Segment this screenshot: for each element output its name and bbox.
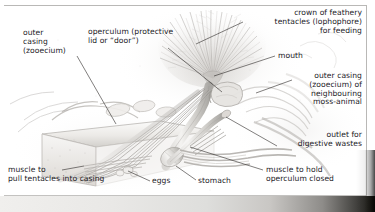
leader-mouth	[214, 56, 275, 76]
label-muscle-pull-tentacles: muscle to pull tentacles into casing	[8, 166, 104, 184]
label-operculum: operculum (protective lid or “door”)	[88, 28, 173, 46]
leader-stomach	[176, 166, 196, 180]
label-outer-casing-neighbour: outer casing (zooecium) of neighbouring …	[309, 72, 362, 107]
label-outer-casing-zooecium: outer casing (zooecium)	[23, 29, 66, 55]
label-muscle-hold-operculum: muscle to hold operculum closed	[266, 166, 334, 184]
page-corner-shadow	[356, 150, 375, 212]
leader-outer-casing-neighbour	[256, 80, 292, 93]
leader-operculum	[168, 48, 222, 92]
leader-muscle-hold-operculum	[190, 147, 263, 170]
leader-eggs	[128, 171, 150, 181]
leader-outer-casing-zooecium	[77, 56, 116, 124]
leader-outlet-digestive-wastes	[226, 117, 277, 146]
label-crown-of-tentacles: crown of feathery tentacles (lophophore)…	[275, 9, 362, 35]
illustration-page: outer casing (zooecium) operculum (prote…	[0, 0, 375, 212]
page-edge-shadow	[0, 196, 375, 212]
label-stomach: stomach	[198, 177, 231, 186]
label-eggs: eggs	[152, 177, 170, 186]
label-mouth: mouth	[278, 52, 303, 61]
frame-top-border	[4, 5, 367, 6]
label-outlet-digestive-wastes: outlet for digestive wastes	[298, 131, 362, 149]
leader-crown-of-tentacles	[196, 22, 243, 44]
